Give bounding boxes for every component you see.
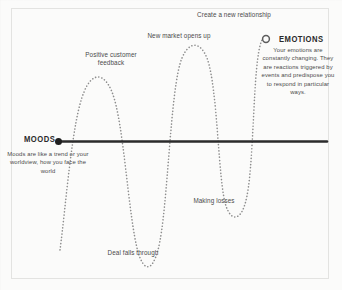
emotions-wave-path (60, 40, 262, 267)
moods-description: Moods are like a trend or your worldview… (6, 150, 90, 175)
moods-dot-marker (55, 138, 62, 145)
event-label-positive-customer-feedback: Positive customer feedback (73, 51, 149, 67)
diagram-canvas: MOODS Moods are like a trend or your wor… (0, 0, 342, 290)
event-label-new-market-opens-up: New market opens up (141, 32, 217, 40)
event-label-deal-falls-through: Deal falls through (95, 249, 171, 257)
event-label-create-a-new-relationship: Create a new relationship (196, 11, 272, 19)
moods-title: MOODS (24, 134, 55, 144)
emotions-circle-marker (263, 36, 270, 43)
emotions-title: EMOTIONS (279, 34, 324, 44)
event-label-making-losses: Making losses (176, 197, 252, 205)
emotions-description: Your emotions are constantly changing. T… (259, 46, 337, 96)
